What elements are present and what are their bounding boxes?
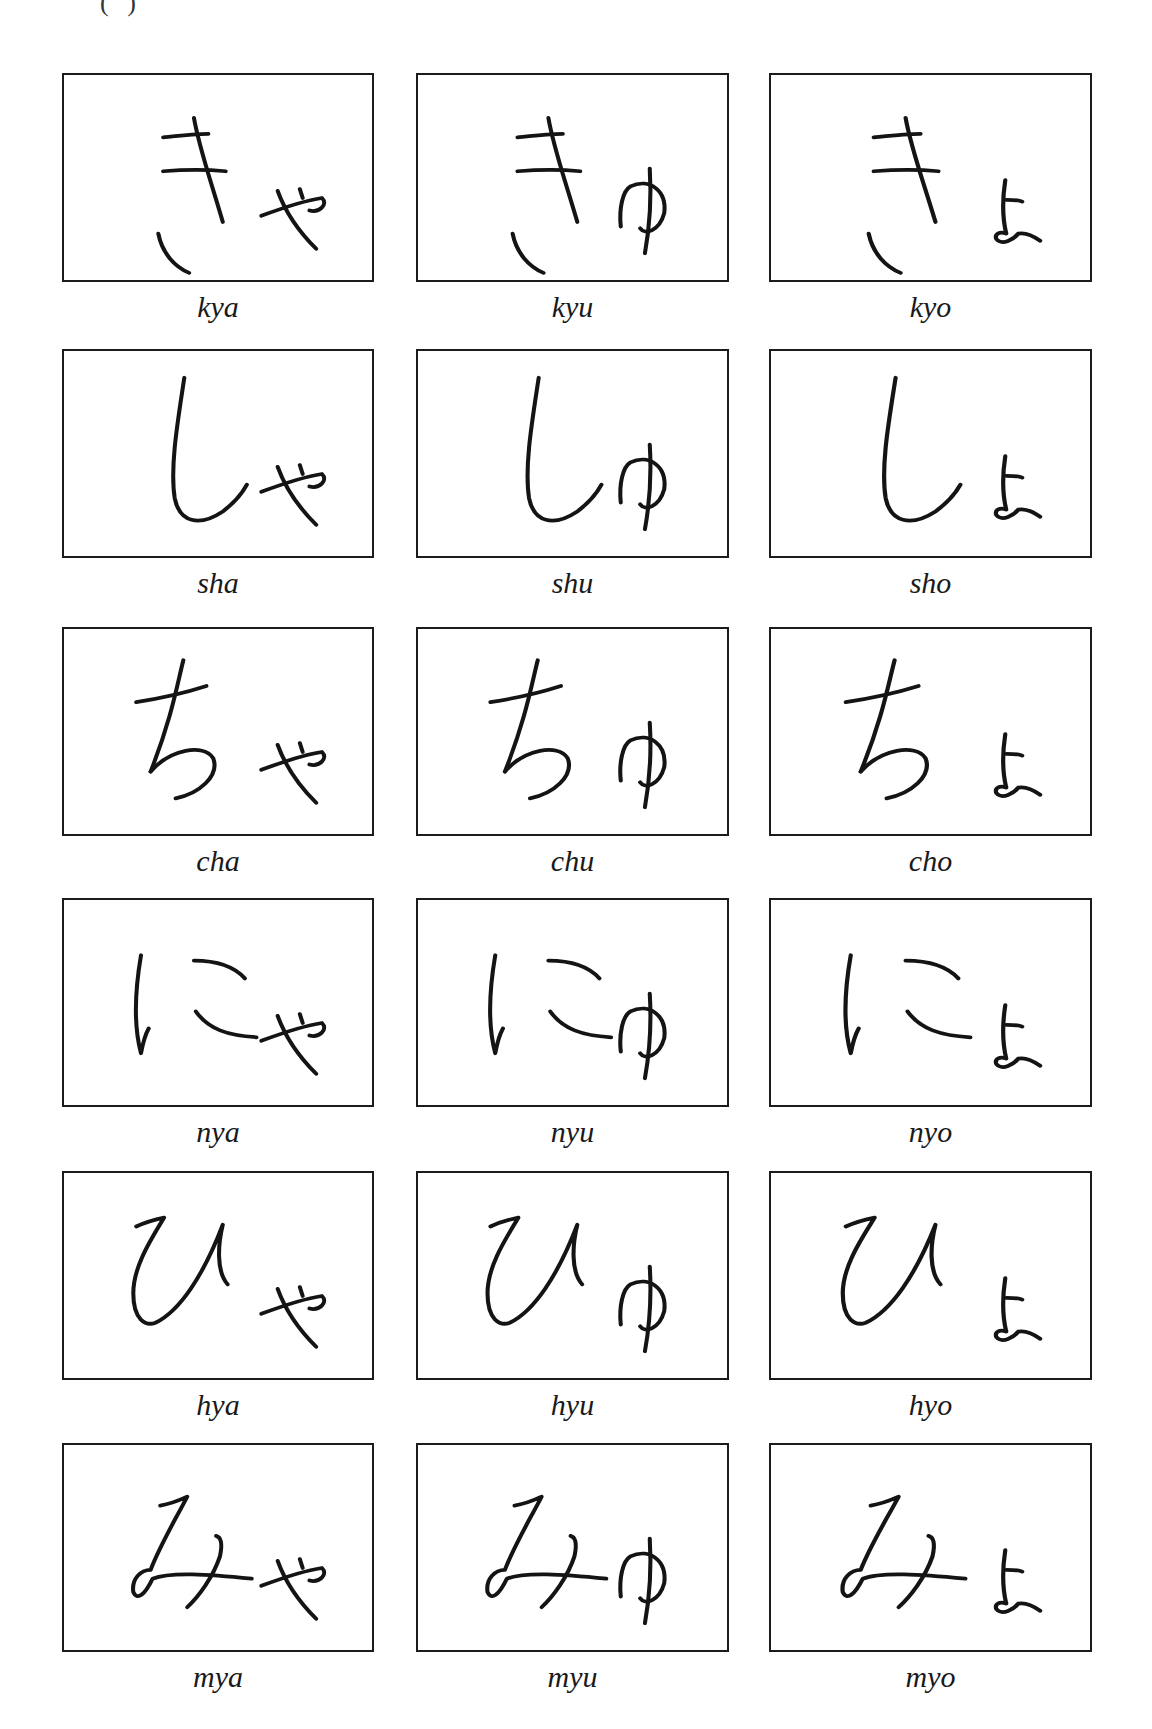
romaji-label: mya [62,1660,374,1694]
handwriting-box [769,627,1092,836]
kana-card-kyu: kyu [416,73,729,342]
handwritten-kana-glyph [418,1173,727,1378]
handwriting-box [416,1171,729,1380]
handwritten-kana-glyph [64,351,372,556]
handwritten-kana-glyph [418,629,727,834]
handwritten-kana-glyph [771,629,1090,834]
kana-card-chu: chu [416,627,729,896]
handwritten-kana-glyph [64,1445,372,1650]
handwriting-box [416,1443,729,1652]
handwriting-box [62,1171,374,1380]
romaji-label: nya [62,1115,374,1149]
kana-card-sho: sho [769,349,1092,618]
handwritten-kana-glyph [64,900,372,1105]
handwriting-box [416,349,729,558]
handwriting-box [416,73,729,282]
kana-card-kyo: kyo [769,73,1092,342]
romaji-label: cha [62,844,374,878]
kana-card-shu: shu [416,349,729,618]
kana-card-myu: myu [416,1443,729,1712]
handwriting-box [769,898,1092,1107]
handwritten-kana-glyph [771,1445,1090,1650]
romaji-label: sha [62,566,374,600]
handwritten-kana-glyph [418,1445,727,1650]
kana-card-nya: nya [62,898,374,1167]
kana-card-mya: mya [62,1443,374,1712]
kana-card-hyo: hyo [769,1171,1092,1440]
kana-card-myo: myo [769,1443,1092,1712]
kana-card-cha: cha [62,627,374,896]
kana-card-nyu: nyu [416,898,729,1167]
handwriting-box [62,627,374,836]
romaji-label: chu [416,844,729,878]
handwritten-kana-glyph [64,75,372,280]
handwriting-box [769,1171,1092,1380]
handwriting-box [62,73,374,282]
handwritten-kana-glyph [418,900,727,1105]
romaji-label: hyo [769,1388,1092,1422]
romaji-label: kyu [416,290,729,324]
romaji-label: hyu [416,1388,729,1422]
handwritten-kana-glyph [418,75,727,280]
romaji-label: nyu [416,1115,729,1149]
romaji-label: myu [416,1660,729,1694]
handwritten-kana-glyph [771,1173,1090,1378]
romaji-label: kyo [769,290,1092,324]
handwritten-kana-glyph [771,900,1090,1105]
kana-card-hyu: hyu [416,1171,729,1440]
romaji-label: nyo [769,1115,1092,1149]
handwriting-box [416,627,729,836]
romaji-label: sho [769,566,1092,600]
handwritten-kana-glyph [771,351,1090,556]
handwritten-kana-glyph [418,351,727,556]
handwriting-box [62,349,374,558]
kana-card-kya: kya [62,73,374,342]
handwriting-box [769,1443,1092,1652]
kana-card-sha: sha [62,349,374,618]
kana-card-hya: hya [62,1171,374,1440]
romaji-label: hya [62,1388,374,1422]
handwriting-box [769,349,1092,558]
romaji-label: kya [62,290,374,324]
kana-card-cho: cho [769,627,1092,896]
romaji-label: shu [416,566,729,600]
handwritten-kana-glyph [64,1173,372,1378]
kana-card-nyo: nyo [769,898,1092,1167]
cropped-header-fragment: ( ) [100,0,142,18]
handwriting-box [769,73,1092,282]
handwritten-kana-glyph [64,629,372,834]
handwriting-box [416,898,729,1107]
romaji-label: cho [769,844,1092,878]
handwritten-kana-glyph [771,75,1090,280]
handwriting-box [62,1443,374,1652]
romaji-label: myo [769,1660,1092,1694]
handwriting-box [62,898,374,1107]
